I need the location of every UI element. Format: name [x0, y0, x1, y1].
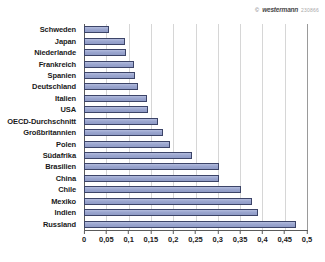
tick-label: 0,4 [257, 235, 267, 244]
tick-mark [307, 231, 308, 234]
x-axis-tick: 0,15 [144, 231, 159, 244]
bar [84, 163, 219, 170]
tick-label: 0,1 [123, 235, 133, 244]
category-label: Indien [0, 207, 80, 218]
bar [84, 49, 126, 56]
tick-label: 0,2 [168, 235, 178, 244]
bar [84, 175, 219, 182]
bar-row [84, 24, 307, 35]
bar [84, 118, 158, 125]
bar-row [84, 138, 307, 149]
chart-figure: © westermann 230866 SchwedenJapanNiederl… [0, 0, 325, 262]
value-axis-ticks: 00,050,10,150,20,250,30,350,40,450,5 [84, 231, 307, 249]
category-label: Frankreich [0, 58, 80, 69]
bar [84, 38, 125, 45]
category-label: Mexiko [0, 196, 80, 207]
category-label: Deutschland [0, 81, 80, 92]
tick-label: 0 [82, 235, 86, 244]
x-axis-tick: 0,45 [277, 231, 292, 244]
bar-row [84, 93, 307, 104]
bar-row [84, 81, 307, 92]
tick-mark [173, 231, 174, 234]
x-axis-tick: 0,4 [257, 231, 267, 244]
tick-mark [262, 231, 263, 234]
tick-mark [217, 231, 218, 234]
bar [84, 198, 252, 205]
category-label: Italien [0, 93, 80, 104]
bar-row [84, 184, 307, 195]
bar-row [84, 150, 307, 161]
bar [84, 141, 170, 148]
x-axis-tick: 0,25 [188, 231, 203, 244]
category-label: Chile [0, 184, 80, 195]
plot-area [84, 24, 307, 230]
westermann-watermark: © westermann 230866 [255, 6, 319, 13]
tick-mark [195, 231, 196, 234]
x-axis-tick: 0,05 [99, 231, 114, 244]
bar [84, 186, 241, 193]
x-axis-tick: 0,2 [168, 231, 178, 244]
bar-row [84, 47, 307, 58]
bar-row [84, 196, 307, 207]
x-axis-tick: 0,5 [302, 231, 312, 244]
bar [84, 83, 138, 90]
bar-row [84, 173, 307, 184]
bar-row [84, 116, 307, 127]
x-axis-tick: 0 [82, 231, 86, 244]
x-axis-tick: 0,3 [213, 231, 223, 244]
bar [84, 95, 147, 102]
bar [84, 106, 148, 113]
category-label: Niederlande [0, 47, 80, 58]
bar-row [84, 161, 307, 172]
bar [84, 26, 109, 33]
tick-mark [106, 231, 107, 234]
tick-label: 0,35 [233, 235, 248, 244]
tick-label: 0,5 [302, 235, 312, 244]
bar [84, 61, 134, 68]
tick-label: 0,05 [99, 235, 114, 244]
tick-label: 0,45 [277, 235, 292, 244]
bar-rows [84, 24, 307, 230]
tick-mark [150, 231, 151, 234]
bar-row [84, 70, 307, 81]
gridline [307, 24, 308, 230]
category-label: Südafrika [0, 150, 80, 161]
category-label: Polen [0, 138, 80, 149]
tick-mark [284, 231, 285, 234]
bar [84, 72, 135, 79]
tick-label: 0,3 [213, 235, 223, 244]
category-label: USA [0, 104, 80, 115]
tick-mark [240, 231, 241, 234]
category-label: Russland [0, 218, 80, 229]
category-label: Brasilien [0, 161, 80, 172]
bar-row [84, 127, 307, 138]
x-axis-tick: 0,35 [233, 231, 248, 244]
bar [84, 221, 296, 228]
bar-row [84, 207, 307, 218]
x-axis-tick: 0,1 [123, 231, 133, 244]
category-label: China [0, 173, 80, 184]
tick-label: 0,25 [188, 235, 203, 244]
bar-row [84, 218, 307, 229]
category-label: OECD-Durchschnitt [0, 116, 80, 127]
tick-mark [128, 231, 129, 234]
tick-mark [83, 231, 84, 234]
publisher-label: westermann [262, 6, 298, 13]
category-label: Großbritannien [0, 127, 80, 138]
category-label: Japan [0, 35, 80, 46]
tick-label: 0,15 [144, 235, 159, 244]
category-label: Spanien [0, 70, 80, 81]
bar [84, 129, 163, 136]
bar-row [84, 58, 307, 69]
copyright-icon: © [255, 7, 259, 13]
category-axis-labels: SchwedenJapanNiederlandeFrankreichSpanie… [0, 24, 80, 230]
bar-row [84, 104, 307, 115]
bar [84, 209, 258, 216]
bar-row [84, 35, 307, 46]
watermark-code: 230866 [301, 7, 319, 13]
category-label: Schweden [0, 24, 80, 35]
bar [84, 152, 192, 159]
